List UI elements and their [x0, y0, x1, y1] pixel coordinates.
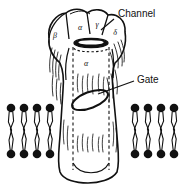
subunit-label-delta: δ	[113, 28, 117, 37]
ion-channel-diagram: Channel Gate β α γ δ α	[0, 0, 182, 189]
phospholipid-right-2	[144, 104, 153, 159]
phospholipid-left-2	[20, 104, 29, 159]
subunit-label-beta: β	[52, 31, 57, 40]
diagram-canvas: Channel Gate β α γ δ α	[0, 0, 182, 189]
phospholipid-right-4	[170, 104, 179, 159]
channel-mouth	[74, 38, 108, 47]
channel-label: Channel	[118, 8, 155, 19]
phospholipid-right-3	[157, 104, 166, 159]
gate-label: Gate	[137, 74, 159, 85]
phospholipid-left-1	[7, 104, 16, 159]
phospholipid-left-4	[46, 104, 55, 159]
membrane-right-leaflet	[131, 104, 179, 159]
membrane-left-leaflet	[7, 104, 55, 159]
phospholipid-right-1	[131, 104, 140, 159]
phospholipid-left-3	[33, 104, 42, 159]
